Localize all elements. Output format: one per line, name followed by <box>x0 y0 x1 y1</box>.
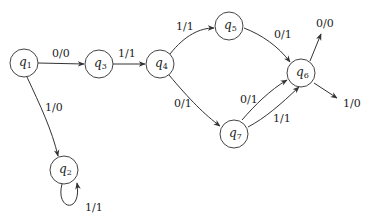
state-q2: q2 <box>50 156 78 184</box>
svg-text:1/1: 1/1 <box>176 20 194 33</box>
svg-text:0/1: 0/1 <box>174 97 192 110</box>
edge-q2-self-loop: 1/1 <box>61 183 103 214</box>
svg-text:0/0: 0/0 <box>52 47 70 60</box>
state-q1: q1 <box>10 49 38 77</box>
state-q7: q7 <box>220 120 248 148</box>
edge-q5-q6: 0/1 <box>244 28 292 62</box>
edge-q1-q3: 0/0 <box>38 47 84 64</box>
svg-text:1/1: 1/1 <box>85 201 103 214</box>
state-q6: q6 <box>287 59 315 87</box>
edge-q1-q2: 1/0 <box>27 77 63 156</box>
edge-q4-q5: 1/1 <box>170 20 214 54</box>
svg-text:1/0: 1/0 <box>343 97 361 110</box>
svg-text:1/1: 1/1 <box>118 47 136 60</box>
state-q3: q3 <box>85 50 113 78</box>
svg-text:1/0: 1/0 <box>45 101 63 114</box>
state-q5: q5 <box>215 12 243 40</box>
svg-text:0/1: 0/1 <box>274 28 292 41</box>
svg-text:0/1: 0/1 <box>240 93 258 106</box>
edge-q3-q4: 1/1 <box>113 47 145 64</box>
state-diagram: 0/0 1/0 1/1 1/1 1/1 0/1 0/1 0/1 1/1 0/0 … <box>0 0 367 222</box>
svg-text:0/0: 0/0 <box>316 17 334 30</box>
edge-q4-q7: 0/1 <box>169 75 220 126</box>
state-q4: q4 <box>146 50 174 78</box>
edge-q6-out-1: 1/0 <box>314 83 361 110</box>
edge-q6-out-0: 0/0 <box>310 17 334 61</box>
svg-text:1/1: 1/1 <box>273 112 291 125</box>
